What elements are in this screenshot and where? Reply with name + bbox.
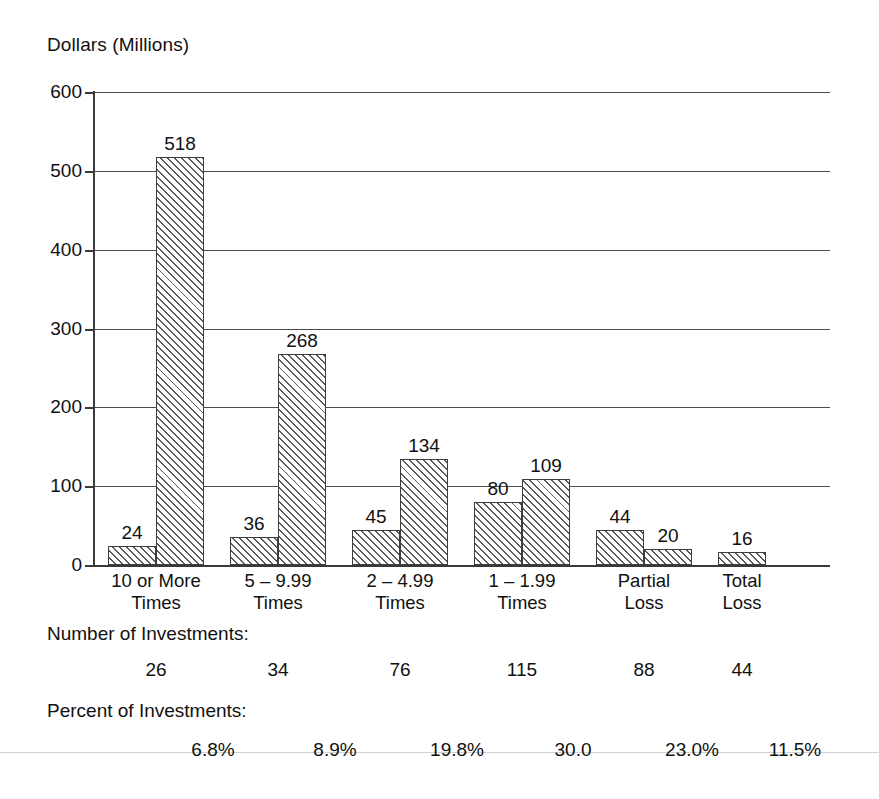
category-line-1: 5 – 9.99: [245, 570, 312, 592]
bar-total-loss-invested: [718, 552, 766, 565]
y-tick-label-600: 600: [22, 81, 82, 103]
bar-label-134: 134: [408, 435, 440, 457]
percent-of-investments-row: 6.8% 8.9% 19.8% 30.0 23.0% 11.5%: [95, 739, 830, 765]
bar-chart-figure: Dollars (Millions) 600 500 400 300 200 1…: [0, 0, 879, 799]
y-tick-label-300: 300: [22, 318, 82, 340]
bar-label-44: 44: [609, 506, 630, 528]
y-tick-mark-400: [85, 250, 94, 252]
category-line-2: Times: [111, 592, 200, 614]
y-tick-mark-200: [85, 407, 94, 409]
y-tick-label-0: 0: [22, 554, 82, 576]
y-tick-mark-0: [85, 565, 94, 567]
bar-label-80: 80: [487, 478, 508, 500]
bar-label-36: 36: [243, 513, 264, 535]
y-tick-label-500: 500: [22, 160, 82, 182]
bar-10-or-more-times-returned: [156, 157, 204, 565]
bar-2-4-99-times-invested: [352, 530, 400, 566]
y-tick-mark-600: [85, 92, 94, 94]
y-tick-mark-500: [85, 171, 94, 173]
bar-label-24: 24: [121, 522, 142, 544]
gridline-200: [95, 407, 830, 408]
percent-of-investments-cell-4: 30.0: [555, 739, 592, 761]
number-of-investments-cell-3: 76: [389, 659, 410, 681]
bar-partial-loss-invested: [596, 530, 644, 565]
percent-of-investments-cell-5: 23.0%: [665, 739, 719, 761]
category-line-1: Total: [722, 570, 761, 592]
category-label-1-1-99-times: 1 – 1.99 Times: [489, 570, 556, 614]
gridline-300: [95, 329, 830, 330]
percent-of-investments-cell-2: 8.9%: [313, 739, 356, 761]
x-axis-baseline: [87, 565, 830, 567]
number-of-investments-cell-5: 88: [633, 659, 654, 681]
bar-1-1-99-times-invested: [474, 502, 522, 565]
y-tick-label-200: 200: [22, 396, 82, 418]
bar-5-9-99-times-returned: [278, 354, 326, 565]
bar-1-1-99-times-returned: [522, 479, 570, 565]
number-of-investments-heading: Number of Investments:: [47, 623, 249, 645]
number-of-investments-cell-4: 115: [507, 659, 537, 681]
bar-partial-loss-returned: [644, 549, 692, 565]
gridline-100: [95, 486, 830, 487]
bar-label-268: 268: [286, 330, 318, 352]
bar-label-16: 16: [731, 528, 752, 550]
category-label-2-4-99-times: 2 – 4.99 Times: [367, 570, 434, 614]
percent-of-investments-heading: Percent of Investments:: [47, 700, 247, 722]
number-of-investments-cell-2: 34: [267, 659, 288, 681]
category-line-1: Partial: [618, 570, 670, 592]
bar-label-109: 109: [530, 455, 562, 477]
gridline-500: [95, 171, 830, 172]
category-label-partial-loss: Partial Loss: [618, 570, 670, 614]
percent-of-investments-cell-1: 6.8%: [191, 739, 234, 761]
category-line-2: Loss: [618, 592, 670, 614]
bar-label-20: 20: [657, 525, 678, 547]
y-tick-label-400: 400: [22, 239, 82, 261]
number-of-investments-cell-1: 26: [145, 659, 166, 681]
category-line-1: 10 or More: [111, 570, 200, 592]
category-line-1: 1 – 1.99: [489, 570, 556, 592]
category-label-5-9-99-times: 5 – 9.99 Times: [245, 570, 312, 614]
percent-of-investments-cell-3: 19.8%: [430, 739, 484, 761]
category-label-10-or-more-times: 10 or More Times: [111, 570, 200, 614]
percent-of-investments-cell-6: 11.5%: [769, 739, 821, 761]
category-line-2: Times: [367, 592, 434, 614]
gridline-400: [95, 250, 830, 251]
category-line-1: 2 – 4.99: [367, 570, 434, 592]
gridline-600: [95, 92, 830, 93]
bar-5-9-99-times-invested: [230, 537, 278, 565]
bar-label-518: 518: [164, 133, 196, 155]
bar-2-4-99-times-returned: [400, 459, 448, 565]
category-line-2: Times: [489, 592, 556, 614]
y-tick-label-100: 100: [22, 475, 82, 497]
y-tick-mark-300: [85, 329, 94, 331]
bar-label-45: 45: [365, 506, 386, 528]
y-axis-title: Dollars (Millions): [47, 34, 189, 56]
category-line-2: Loss: [722, 592, 761, 614]
number-of-investments-cell-6: 44: [731, 659, 752, 681]
category-line-2: Times: [245, 592, 312, 614]
bar-10-or-more-times-invested: [108, 546, 156, 565]
plot-area: 24 518 36 268 45 134 80 109 44 20 16: [95, 92, 830, 565]
x-axis-category-labels: 10 or More Times 5 – 9.99 Times 2 – 4.99…: [95, 570, 830, 618]
y-axis-tick-labels: 600 500 400 300 200 100 0: [20, 92, 82, 565]
category-label-total-loss: Total Loss: [722, 570, 761, 614]
y-tick-mark-100: [85, 486, 94, 488]
number-of-investments-row: 26 34 76 115 88 44: [95, 659, 830, 685]
